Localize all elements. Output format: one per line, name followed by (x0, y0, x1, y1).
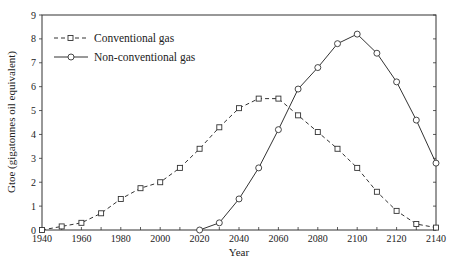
data-point-conventional (394, 208, 399, 213)
chart: 1940196019802000202020402060208021002120… (0, 0, 458, 270)
data-point-nonconventional (295, 86, 301, 92)
data-point-conventional (158, 180, 163, 185)
data-point-conventional (118, 196, 123, 201)
data-point-conventional (335, 146, 340, 151)
y-tick-label: 9 (31, 10, 36, 21)
x-tick-label: 2080 (308, 233, 328, 244)
data-point-conventional (315, 130, 320, 135)
x-tick-label: 2020 (190, 233, 210, 244)
data-point-conventional (79, 220, 84, 225)
y-tick-label: 2 (31, 177, 36, 188)
data-point-conventional (237, 106, 242, 111)
y-tick-label: 3 (31, 153, 36, 164)
data-point-nonconventional (374, 50, 380, 56)
data-point-nonconventional (433, 160, 439, 166)
data-point-conventional (414, 222, 419, 227)
data-point-conventional (138, 186, 143, 191)
x-tick-label: 1960 (71, 233, 91, 244)
legend-label-nonconventional: Non-conventional gas (94, 51, 196, 64)
data-point-conventional (217, 125, 222, 130)
data-point-nonconventional (275, 127, 281, 133)
y-tick-label: 5 (31, 105, 36, 116)
y-tick-label: 7 (31, 57, 36, 68)
data-point-nonconventional (236, 196, 242, 202)
x-tick-label: 2040 (229, 233, 249, 244)
x-tick-label: 2120 (387, 233, 407, 244)
data-point-nonconventional (256, 165, 262, 171)
legend-marker-nonconventional (68, 54, 74, 60)
data-point-nonconventional (216, 220, 222, 226)
x-tick-label: 2000 (150, 233, 170, 244)
data-point-nonconventional (413, 117, 419, 123)
data-point-conventional (197, 146, 202, 151)
data-point-nonconventional (335, 41, 341, 47)
data-point-nonconventional (354, 31, 360, 37)
x-tick-label: 2100 (347, 233, 367, 244)
data-point-conventional (40, 228, 45, 233)
series-line-conventional (42, 99, 436, 230)
data-point-conventional (434, 225, 439, 230)
y-tick-label: 4 (31, 129, 36, 140)
legend: Conventional gas Non-conventional gas (54, 32, 196, 64)
y-tick-label: 6 (31, 81, 36, 92)
data-point-conventional (355, 165, 360, 170)
x-tick-label: 2060 (268, 233, 288, 244)
x-axis-label: Year (229, 246, 250, 258)
data-point-conventional (99, 211, 104, 216)
x-tick-label: 1980 (111, 233, 131, 244)
data-point-conventional (296, 113, 301, 118)
legend-marker-conventional (68, 36, 73, 41)
y-tick-label: 0 (31, 225, 36, 236)
y-tick-label: 8 (31, 33, 36, 44)
data-point-nonconventional (394, 79, 400, 85)
data-point-conventional (177, 165, 182, 170)
data-point-conventional (256, 96, 261, 101)
data-point-conventional (59, 224, 64, 229)
data-point-nonconventional (197, 227, 203, 233)
data-point-nonconventional (315, 65, 321, 71)
data-point-conventional (276, 96, 281, 101)
x-tick-label: 2140 (426, 233, 446, 244)
y-tick-label: 1 (31, 201, 36, 212)
data-point-conventional (374, 189, 379, 194)
axes: 1940196019802000202020402060208021002120… (31, 10, 446, 245)
y-axis-label: Gtoe (gigatonnes oil equivalent) (5, 51, 18, 193)
legend-label-conventional: Conventional gas (94, 32, 175, 45)
